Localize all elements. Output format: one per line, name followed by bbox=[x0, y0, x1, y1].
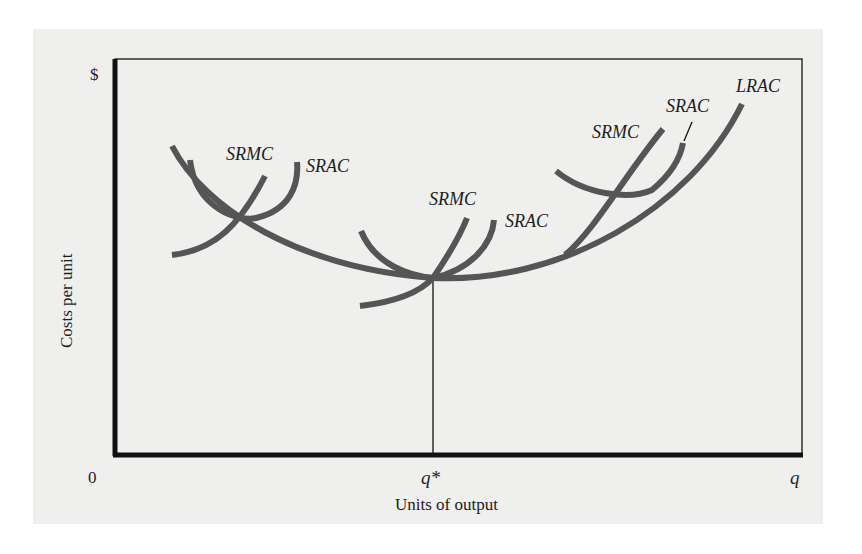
q-star-label: q* bbox=[421, 467, 441, 488]
x-axis-label: Units of output bbox=[395, 495, 498, 514]
cost-curves-diagram: SRMC SRAC SRMC SRAC SRMC SRAC LRAC $ Cos… bbox=[0, 0, 862, 554]
label-left-srmc: SRMC bbox=[226, 144, 274, 164]
mid-srmc-curve bbox=[360, 218, 467, 306]
label-left-srac: SRAC bbox=[306, 156, 350, 176]
label-lrac: LRAC bbox=[735, 76, 781, 96]
y-axis-label: Costs per unit bbox=[57, 253, 76, 348]
label-right-srac: SRAC bbox=[666, 96, 710, 116]
plot-frame bbox=[115, 59, 802, 456]
label-right-srmc: SRMC bbox=[592, 122, 640, 142]
label-mid-srac: SRAC bbox=[505, 211, 549, 231]
left-srmc-curve bbox=[172, 176, 265, 255]
label-mid-srmc: SRMC bbox=[429, 189, 477, 209]
srac-pointer bbox=[684, 122, 692, 141]
x-axis-origin: 0 bbox=[88, 468, 97, 487]
x-axis-symbol: q bbox=[790, 467, 800, 488]
y-axis-symbol: $ bbox=[90, 65, 99, 84]
